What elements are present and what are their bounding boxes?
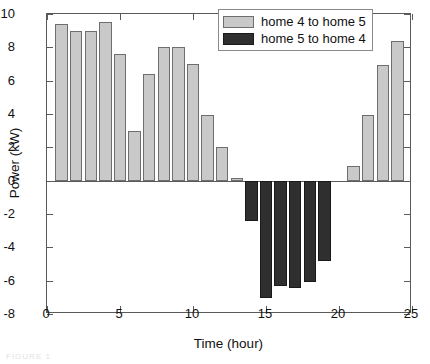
plot-area <box>46 13 411 313</box>
bar-home-4-to-home-5-h10 <box>187 64 199 181</box>
bar-home-4-to-home-5-h13 <box>231 178 243 181</box>
bar-home-5-to-home-4-h17 <box>289 181 301 289</box>
x-tick-label: 10 <box>185 307 199 320</box>
x-tick-label: 15 <box>258 307 272 320</box>
bar-home-4-to-home-5-h8 <box>158 47 170 180</box>
bars-layer <box>47 14 410 312</box>
y-tick-label: -8 <box>0 307 15 320</box>
bar-home-5-to-home-4-h16 <box>274 181 286 286</box>
bar-home-4-to-home-5-h3 <box>85 31 97 181</box>
x-tick-label: 25 <box>404 307 418 320</box>
legend-swatch-home4-to-home5 <box>223 16 254 28</box>
x-axis-title: Time (hour) <box>46 336 411 351</box>
legend-label-home5-to-home4: home 5 to home 4 <box>261 32 366 45</box>
y-tick-label: 2 <box>0 140 15 153</box>
bar-home-4-to-home-5-h22 <box>362 115 374 181</box>
bar-home-4-to-home-5-h24 <box>391 41 403 181</box>
bar-home-4-to-home-5-h21 <box>347 166 359 181</box>
bar-home-5-to-home-4-h19 <box>318 181 330 262</box>
bar-home-4-to-home-5-h1 <box>55 24 67 181</box>
legend-item: home 4 to home 5 <box>223 13 366 30</box>
bar-home-5-to-home-4-h18 <box>304 181 316 283</box>
legend-swatch-home5-to-home4 <box>223 33 254 45</box>
legend-item: home 5 to home 4 <box>223 30 366 47</box>
chart-legend: home 4 to home 5 home 5 to home 4 <box>218 9 373 51</box>
y-tick-label: -2 <box>0 207 15 220</box>
bar-home-5-to-home-4-h14 <box>245 181 257 222</box>
x-tick-label: 5 <box>115 307 122 320</box>
caption-artifact: FIGURE 1 <box>6 352 51 361</box>
bar-home-4-to-home-5-h23 <box>377 65 389 181</box>
y-tick-label: 6 <box>0 73 15 86</box>
y-tick-label: -4 <box>0 240 15 253</box>
bar-home-4-to-home-5-h5 <box>114 54 126 181</box>
y-tick-label: -6 <box>0 273 15 286</box>
y-tick-label: 8 <box>0 40 15 53</box>
bar-home-4-to-home-5-h7 <box>143 74 155 181</box>
x-tick-top <box>412 14 413 20</box>
y-tick-label: 10 <box>0 7 15 20</box>
bar-home-4-to-home-5-h6 <box>128 131 140 181</box>
bar-home-4-to-home-5-h11 <box>201 115 213 181</box>
x-tick-label: 0 <box>42 307 49 320</box>
bar-home-4-to-home-5-h4 <box>99 22 111 180</box>
bar-home-4-to-home-5-h9 <box>172 47 184 180</box>
y-tick-label: 4 <box>0 107 15 120</box>
y-tick-label: 0 <box>0 173 15 186</box>
x-tick-label: 20 <box>331 307 345 320</box>
figure-container: Power (kW) -8-6-4-20246810 0510152025 Ti… <box>0 0 430 364</box>
bar-home-5-to-home-4-h15 <box>260 181 272 299</box>
bar-home-4-to-home-5-h12 <box>216 147 228 180</box>
bar-home-4-to-home-5-h2 <box>70 31 82 181</box>
legend-label-home4-to-home5: home 4 to home 5 <box>261 15 366 28</box>
